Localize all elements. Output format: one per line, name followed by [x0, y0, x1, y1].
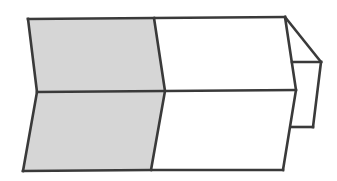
white-lower-right-face	[151, 90, 296, 170]
box-diagram	[0, 0, 337, 181]
white-upper-right-face	[154, 17, 296, 91]
shaded-lower-left-face	[23, 91, 165, 171]
bottom-edge	[23, 170, 283, 171]
shaded-upper-left-face	[28, 18, 165, 92]
